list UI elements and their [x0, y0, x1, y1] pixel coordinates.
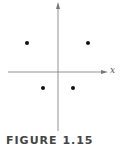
coordinate-plane	[0, 0, 124, 152]
y-axis	[56, 2, 60, 131]
point-quadrant-i	[86, 41, 90, 45]
x-axis-arrowhead-icon	[101, 70, 108, 74]
point-quadrant-iii	[41, 86, 45, 90]
x-axis-label: x	[110, 65, 115, 75]
points	[25, 41, 90, 90]
point-quadrant-iv	[71, 86, 75, 90]
y-axis-arrowhead-icon	[56, 2, 60, 9]
figure-caption: FIGURE 1.15	[6, 134, 94, 147]
point-quadrant-ii	[25, 41, 29, 45]
figure: x FIGURE 1.15	[0, 0, 124, 152]
